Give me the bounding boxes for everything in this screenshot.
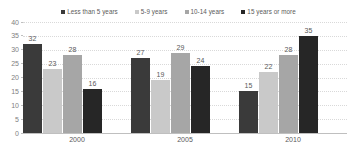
bar[interactable]: 27 [131, 58, 150, 133]
bar-value-label: 28 [285, 46, 293, 54]
bar-groups: 322328162719292415222835 [23, 22, 347, 133]
bar[interactable]: 28 [63, 55, 82, 133]
bar-value-label: 22 [265, 63, 273, 71]
bar-slot: 22 [259, 22, 278, 133]
bar[interactable]: 23 [43, 69, 62, 133]
bar-value-label: 16 [89, 80, 97, 88]
y-tick-label: 10 [11, 101, 19, 110]
bar[interactable]: 16 [83, 89, 102, 133]
category-axis: 200020052010 [23, 134, 347, 146]
bar[interactable]: 15 [239, 91, 258, 133]
bar-value-label: 32 [29, 35, 37, 43]
legend-label: Less than 5 years [67, 8, 118, 15]
bar-value-label: 28 [69, 46, 77, 54]
bar-value-label: 24 [197, 57, 205, 65]
bar-chart: Less than 5 years5-9 years10-14 years15 … [0, 0, 357, 155]
y-tick-label: 15 [11, 87, 19, 96]
legend-entry[interactable]: 5-9 years [135, 8, 168, 15]
bar-slot: 35 [299, 22, 318, 133]
bar-slot: 28 [279, 22, 298, 133]
bar[interactable]: 28 [279, 55, 298, 133]
bar-slot: 16 [83, 22, 102, 133]
category-label: 2000 [23, 134, 131, 146]
bar-slot: 24 [191, 22, 210, 133]
y-tick-label: 20 [11, 73, 19, 82]
bar[interactable]: 35 [299, 36, 318, 133]
legend-swatch-icon [135, 10, 139, 14]
bar-value-label: 29 [177, 44, 185, 52]
bar-group: 32232816 [23, 22, 131, 133]
bar-value-label: 35 [305, 27, 313, 35]
bar-slot: 23 [43, 22, 62, 133]
bar[interactable]: 22 [259, 72, 278, 133]
bar-value-label: 23 [49, 60, 57, 68]
category-label: 2010 [239, 134, 347, 146]
bar[interactable]: 29 [171, 53, 190, 133]
bar[interactable]: 32 [23, 44, 42, 133]
category-label: 2005 [131, 134, 239, 146]
bar-slot: 32 [23, 22, 42, 133]
legend-label: 10-14 years [191, 8, 225, 15]
legend-entry[interactable]: 15 years or more [241, 8, 295, 15]
bar-value-label: 27 [137, 49, 145, 57]
bar-value-label: 15 [245, 82, 253, 90]
bar[interactable]: 19 [151, 80, 170, 133]
y-tick-label: 40 [11, 18, 19, 27]
bar-group: 27192924 [131, 22, 239, 133]
legend-label: 5-9 years [141, 8, 168, 15]
legend-swatch-icon [61, 10, 65, 14]
bar-value-label: 19 [157, 71, 165, 79]
bar[interactable]: 24 [191, 66, 210, 133]
legend-entry[interactable]: 10-14 years [185, 8, 225, 15]
bar-slot: 29 [171, 22, 190, 133]
y-tick-label: 5 [15, 115, 19, 124]
y-tick-label: 30 [11, 45, 19, 54]
bar-slot: 15 [239, 22, 258, 133]
bar-group: 15222835 [239, 22, 347, 133]
bar-slot: 28 [63, 22, 82, 133]
y-tick-label: 0 [15, 129, 19, 138]
legend-swatch-icon [185, 10, 189, 14]
legend-swatch-icon [241, 10, 245, 14]
plot-area: 4035302520151050 32232816271929241522283… [23, 22, 347, 133]
bar-slot: 19 [151, 22, 170, 133]
y-tick-label: 25 [11, 59, 19, 68]
y-tick-label: 35 [11, 31, 19, 40]
chart-legend: Less than 5 years5-9 years10-14 years15 … [0, 5, 357, 18]
legend-entry[interactable]: Less than 5 years [61, 8, 118, 15]
legend-label: 15 years or more [247, 8, 295, 15]
bar-slot: 27 [131, 22, 150, 133]
